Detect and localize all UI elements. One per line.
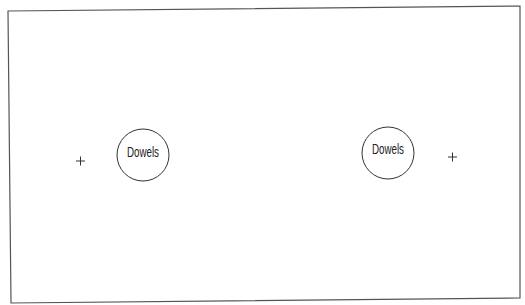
dowel-right: Dowels (362, 127, 414, 179)
dowel-right-label: Dowels (372, 141, 404, 157)
plus-mark-left (76, 157, 85, 166)
dowel-left-label: Dowels (127, 144, 159, 160)
plus-mark-right (448, 153, 457, 162)
board-outline (8, 6, 520, 303)
diagram-canvas: Dowels Dowels (0, 0, 525, 305)
dowel-left: Dowels (117, 129, 169, 181)
